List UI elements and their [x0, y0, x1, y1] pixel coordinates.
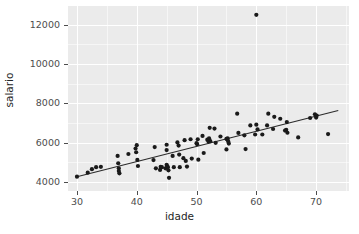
- data-point: [315, 114, 319, 118]
- data-point: [218, 134, 222, 138]
- data-point: [154, 166, 158, 170]
- data-point: [243, 147, 247, 151]
- data-point: [278, 117, 282, 121]
- data-point: [172, 165, 176, 169]
- data-point: [75, 175, 79, 179]
- data-point: [224, 147, 228, 151]
- x-axis-tick-label: 50: [190, 197, 202, 207]
- data-point: [184, 159, 188, 163]
- plot-panel: [68, 6, 349, 191]
- x-axis-tick-label: 30: [71, 197, 83, 207]
- data-point: [135, 158, 139, 162]
- data-point: [253, 132, 257, 136]
- data-point: [214, 141, 218, 145]
- data-point: [171, 154, 175, 158]
- x-axis-tick-label: 60: [250, 197, 262, 207]
- data-point: [271, 127, 275, 131]
- data-point: [153, 145, 157, 149]
- y-axis-tick-mark: [64, 143, 68, 144]
- data-point: [285, 120, 289, 124]
- x-axis-tick-mark: [316, 191, 317, 195]
- data-point: [212, 127, 216, 131]
- y-axis-tick-mark: [64, 64, 68, 65]
- data-point: [242, 133, 246, 137]
- data-point: [182, 138, 186, 142]
- data-point: [285, 131, 289, 135]
- data-point: [235, 112, 239, 116]
- y-axis-title: salario: [3, 55, 15, 125]
- data-point: [296, 135, 300, 139]
- data-point: [248, 123, 252, 127]
- data-point: [190, 156, 194, 160]
- data-point: [166, 168, 170, 172]
- data-point: [185, 165, 189, 169]
- data-point: [208, 126, 212, 130]
- x-axis-tick-mark: [137, 191, 138, 195]
- x-axis-tick-label: 40: [131, 197, 143, 207]
- data-point: [135, 143, 139, 147]
- data-point: [255, 127, 259, 131]
- data-point: [116, 154, 120, 158]
- x-axis-tick-mark: [256, 191, 257, 195]
- data-point: [260, 132, 264, 136]
- data-point: [160, 165, 164, 169]
- data-point: [99, 165, 103, 169]
- data-point: [167, 176, 171, 180]
- data-point: [136, 164, 140, 168]
- data-point: [165, 148, 169, 152]
- data-point: [134, 150, 138, 154]
- x-axis-title: idade: [0, 210, 359, 222]
- data-point: [195, 142, 199, 146]
- y-axis-tick-label: 4000: [0, 177, 60, 187]
- data-point: [188, 137, 192, 141]
- data-point: [254, 13, 258, 17]
- data-point: [151, 158, 155, 162]
- y-axis-tick-mark: [64, 103, 68, 104]
- data-point: [200, 134, 204, 138]
- data-point: [94, 165, 98, 169]
- data-point: [117, 171, 121, 175]
- data-point: [177, 152, 181, 156]
- x-axis-tick-mark: [197, 191, 198, 195]
- data-point: [116, 161, 120, 165]
- data-point: [178, 165, 182, 169]
- data-point: [126, 152, 130, 156]
- data-point: [266, 112, 270, 116]
- data-point: [165, 143, 169, 147]
- gridline-minor-horizontal: [68, 202, 349, 203]
- data-point: [227, 141, 231, 145]
- data-point: [177, 143, 181, 147]
- data-point: [254, 123, 258, 127]
- data-point: [196, 137, 200, 141]
- data-point: [272, 115, 276, 119]
- data-point: [265, 123, 269, 127]
- data-point: [90, 167, 94, 171]
- data-point: [86, 171, 90, 175]
- y-axis-tick-label: 12000: [0, 20, 60, 30]
- y-axis-tick-mark: [64, 25, 68, 26]
- x-axis-tick-label: 70: [310, 197, 322, 207]
- data-point: [326, 132, 330, 136]
- data-points-layer: [68, 6, 349, 191]
- data-point: [196, 158, 200, 162]
- y-axis-tick-label: 6000: [0, 138, 60, 148]
- x-axis-tick-mark: [77, 191, 78, 195]
- data-point: [202, 151, 206, 155]
- data-point: [308, 116, 312, 120]
- scatter-plot-figure: 4000600080001000012000 3040506070 idade …: [0, 0, 359, 234]
- data-point: [208, 139, 212, 143]
- y-axis-tick-mark: [64, 182, 68, 183]
- data-point: [236, 131, 240, 135]
